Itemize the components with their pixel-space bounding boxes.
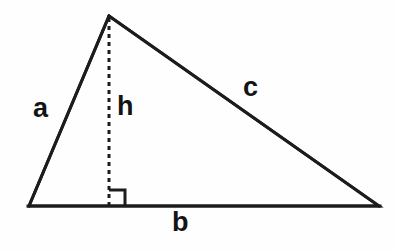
side-a-label: a bbox=[33, 95, 48, 122]
triangle-outline bbox=[29, 16, 379, 206]
side-c-label: c bbox=[243, 74, 258, 101]
right-angle-marker-icon bbox=[109, 190, 125, 206]
side-b-label: b bbox=[172, 209, 189, 236]
triangle-figure: a h c b bbox=[0, 0, 396, 251]
triangle-diagram-svg bbox=[0, 0, 396, 251]
side-c-line bbox=[109, 16, 379, 206]
altitude-h-label: h bbox=[117, 93, 134, 120]
